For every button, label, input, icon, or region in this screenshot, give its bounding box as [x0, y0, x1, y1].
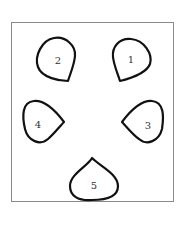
petal-label-5: 5	[91, 180, 97, 191]
petal-label-2: 2	[55, 55, 61, 66]
petal-label-4: 4	[35, 119, 41, 130]
petal-5: 5	[70, 158, 118, 200]
petal-label-3: 3	[145, 120, 151, 131]
petal-2: 2	[37, 38, 75, 81]
petal-4: 4	[23, 101, 64, 142]
petal-3: 3	[122, 101, 163, 142]
petal-diagram: 2 1 4 3 5	[0, 0, 181, 226]
petal-label-1: 1	[128, 54, 134, 65]
petal-1: 1	[113, 39, 151, 81]
